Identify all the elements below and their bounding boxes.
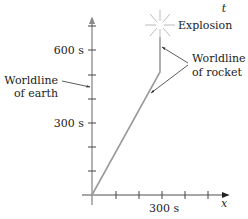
rocket-label-line1: Worldline bbox=[192, 52, 246, 65]
spacetime-diagram: 600 s 300 s t 300 s x Explosion Worldlin… bbox=[0, 0, 248, 219]
earth-label-line1: Worldline bbox=[4, 74, 58, 87]
t-axis: 600 s 300 s t bbox=[54, 2, 227, 205]
explosion-icon bbox=[145, 10, 175, 40]
rocket-pointer-arrow-upper bbox=[162, 47, 188, 63]
explosion-label: Explosion bbox=[178, 19, 232, 32]
t-axis-label: t bbox=[222, 2, 227, 15]
t-tick-300: 300 s bbox=[54, 117, 84, 130]
earth-pointer-arrow bbox=[62, 81, 90, 87]
x-axis-label: x bbox=[221, 197, 228, 210]
x-tick-300: 300 s bbox=[149, 202, 179, 215]
earth-label-line2: of earth bbox=[14, 87, 58, 100]
t-tick-600: 600 s bbox=[54, 44, 84, 57]
rocket-worldline bbox=[92, 37, 160, 195]
x-axis: 300 s x bbox=[82, 191, 228, 215]
rocket-label-line2: of rocket bbox=[192, 66, 242, 79]
